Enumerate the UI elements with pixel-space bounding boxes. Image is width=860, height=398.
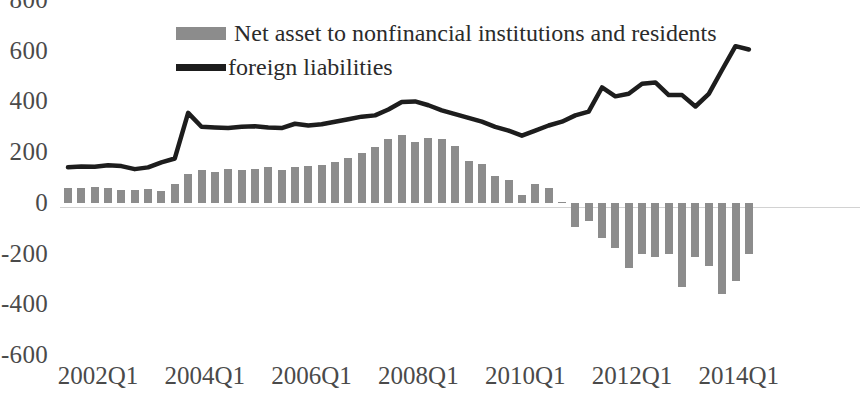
x-tick-2002Q1: 2002Q1 [58, 362, 139, 390]
chart-figure: 8006004002000-200-400-600 2002Q12004Q120… [0, 0, 860, 398]
x-tick-2008Q1: 2008Q1 [378, 362, 459, 390]
legend-label-net-asset: Net asset to nonfinancial institutions a… [234, 21, 717, 45]
x-tick-2004Q1: 2004Q1 [165, 362, 246, 390]
x-tick-2006Q1: 2006Q1 [271, 362, 352, 390]
legend-item-foreign-liabilities: foreign liabilities [176, 52, 736, 82]
line-swatch-icon [176, 64, 226, 71]
x-tick-2010Q1: 2010Q1 [485, 362, 566, 390]
legend-item-net-asset: Net asset to nonfinancial institutions a… [176, 18, 736, 48]
x-tick-2014Q1: 2014Q1 [699, 362, 780, 390]
y-tick-400: 400 [0, 88, 48, 113]
y-tick-neg200: -200 [0, 241, 48, 266]
y-tick-800: 800 [0, 0, 48, 12]
y-tick-200: 200 [0, 139, 48, 164]
y-tick-neg600: -600 [0, 342, 48, 367]
y-tick-0: 0 [0, 190, 48, 215]
legend-label-foreign-liabilities: foreign liabilities [228, 55, 393, 79]
y-tick-600: 600 [0, 38, 48, 63]
y-tick-neg400: -400 [0, 291, 48, 316]
x-tick-2012Q1: 2012Q1 [592, 362, 673, 390]
chart-legend: Net asset to nonfinancial institutions a… [176, 18, 736, 82]
bar-swatch-icon [176, 27, 226, 40]
